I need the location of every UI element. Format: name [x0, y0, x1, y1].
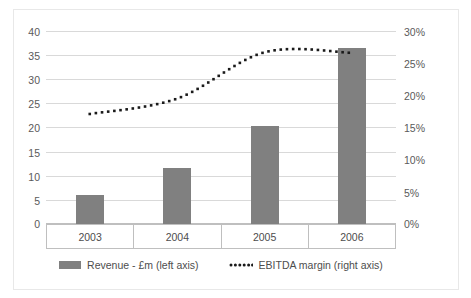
left-tick-5: 5	[34, 196, 40, 207]
bar-slot-2006	[309, 31, 397, 224]
legend-label-ebitda-margin: EBITDA margin (right axis)	[259, 259, 383, 271]
right-tick-5pct: 5%	[404, 188, 419, 199]
right-tick-10pct: 10%	[404, 155, 425, 166]
bar-2003[interactable]	[76, 195, 104, 224]
bar-series-revenue	[46, 31, 396, 224]
right-tick-15pct: 15%	[404, 123, 425, 134]
right-axis-labels: 30% 25% 20% 15% 10% 5% 0%	[404, 31, 444, 224]
left-tick-20: 20	[28, 123, 40, 134]
left-tick-10: 10	[28, 172, 40, 183]
bar-2005[interactable]	[251, 126, 279, 224]
category-label-2003: 2003	[46, 225, 134, 248]
bar-2004[interactable]	[163, 168, 191, 224]
right-tick-30pct: 30%	[404, 27, 425, 38]
bar-slot-2004	[134, 31, 222, 224]
left-tick-0: 0	[34, 219, 40, 230]
legend-item-revenue[interactable]: Revenue - £m (left axis)	[59, 259, 198, 271]
left-tick-25: 25	[28, 99, 40, 110]
right-tick-25pct: 25%	[404, 59, 425, 70]
left-axis-labels: 40 35 30 25 20 15 10 5 0	[14, 31, 40, 224]
right-tick-20pct: 20%	[404, 91, 425, 102]
category-label-2004: 2004	[134, 225, 221, 248]
legend-label-revenue: Revenue - £m (left axis)	[87, 259, 198, 271]
bar-swatch-icon	[59, 261, 81, 269]
left-tick-35: 35	[28, 51, 40, 62]
chart-legend: Revenue - £m (left axis) EBITDA margin (…	[46, 256, 396, 274]
chart-container: 40 35 30 25 20 15 10 5 0 30% 25% 20% 15%…	[0, 0, 471, 298]
left-tick-30: 30	[28, 75, 40, 86]
category-axis: 2003 2004 2005 2006	[46, 224, 396, 249]
bar-2006[interactable]	[338, 48, 366, 224]
legend-item-ebitda-margin[interactable]: EBITDA margin (right axis)	[229, 259, 383, 271]
dotted-line-icon	[229, 261, 253, 269]
bar-slot-2005	[221, 31, 309, 224]
bar-slot-2003	[46, 31, 134, 224]
category-label-2005: 2005	[222, 225, 309, 248]
category-label-2006: 2006	[309, 225, 396, 248]
left-tick-40: 40	[28, 27, 40, 38]
right-tick-0pct: 0%	[404, 219, 419, 230]
left-tick-15: 15	[28, 148, 40, 159]
